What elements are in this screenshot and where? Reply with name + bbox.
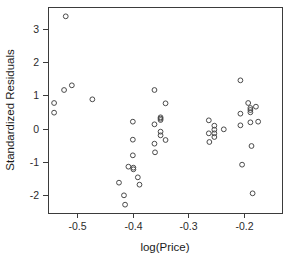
data-point-marker: [152, 141, 157, 146]
data-point-marker: [163, 138, 168, 143]
data-point-marker: [63, 14, 68, 19]
data-point-marker: [126, 164, 131, 169]
y-tick-label: 1: [33, 89, 39, 101]
data-point-marker: [122, 193, 127, 198]
data-point-marker: [152, 88, 157, 93]
data-point-marker: [90, 97, 95, 102]
chart-canvas: -0.5-0.4-0.3-0.2 3210-1-2 log(Price) Sta…: [0, 0, 287, 261]
x-tick-label: -0.5: [68, 220, 86, 232]
data-point-marker: [207, 140, 212, 145]
data-point-marker: [117, 180, 122, 185]
data-point-marker: [130, 119, 135, 124]
data-point-marker: [163, 101, 168, 106]
y-tick-label: 2: [33, 56, 39, 68]
y-tick-label: -1: [30, 156, 39, 168]
data-point-marker: [52, 101, 57, 106]
data-point-marker: [238, 78, 243, 83]
scatter-plot-figure: -0.5-0.4-0.3-0.2 3210-1-2 log(Price) Sta…: [0, 0, 287, 261]
data-point-marker: [206, 118, 211, 123]
data-point-marker: [246, 101, 251, 106]
data-points: [52, 14, 261, 207]
data-point-marker: [135, 175, 140, 180]
plot-frame: [49, 8, 283, 214]
data-point-marker: [123, 202, 128, 207]
x-axis-title: log(Price): [140, 241, 189, 253]
y-axis-ticks: 3210-1-2: [30, 23, 48, 201]
x-axis-ticks: -0.5-0.4-0.3-0.2: [68, 213, 253, 232]
data-point-marker: [249, 144, 254, 149]
y-tick-label: 3: [33, 23, 39, 35]
data-point-marker: [248, 120, 253, 125]
data-point-marker: [238, 111, 243, 116]
x-tick-label: -0.3: [179, 220, 197, 232]
data-point-marker: [254, 104, 259, 109]
y-axis-title: Standardized Residuals: [4, 49, 16, 171]
data-point-marker: [62, 88, 67, 93]
data-point-marker: [250, 191, 255, 196]
y-tick-label: 0: [33, 123, 39, 135]
data-point-marker: [221, 127, 226, 132]
data-point-marker: [137, 182, 142, 187]
plot-border: [49, 8, 283, 214]
x-tick-label: -0.4: [124, 220, 142, 232]
data-point-marker: [153, 150, 158, 155]
data-point-marker: [238, 123, 243, 128]
data-point-marker: [69, 83, 74, 88]
data-point-marker: [206, 131, 211, 136]
y-tick-label: -2: [30, 189, 39, 201]
data-point-marker: [130, 153, 135, 158]
data-point-marker: [130, 137, 135, 142]
data-point-marker: [52, 110, 57, 115]
data-point-marker: [256, 119, 261, 124]
data-point-marker: [152, 122, 157, 127]
data-point-marker: [240, 162, 245, 167]
x-tick-label: -0.2: [235, 220, 253, 232]
